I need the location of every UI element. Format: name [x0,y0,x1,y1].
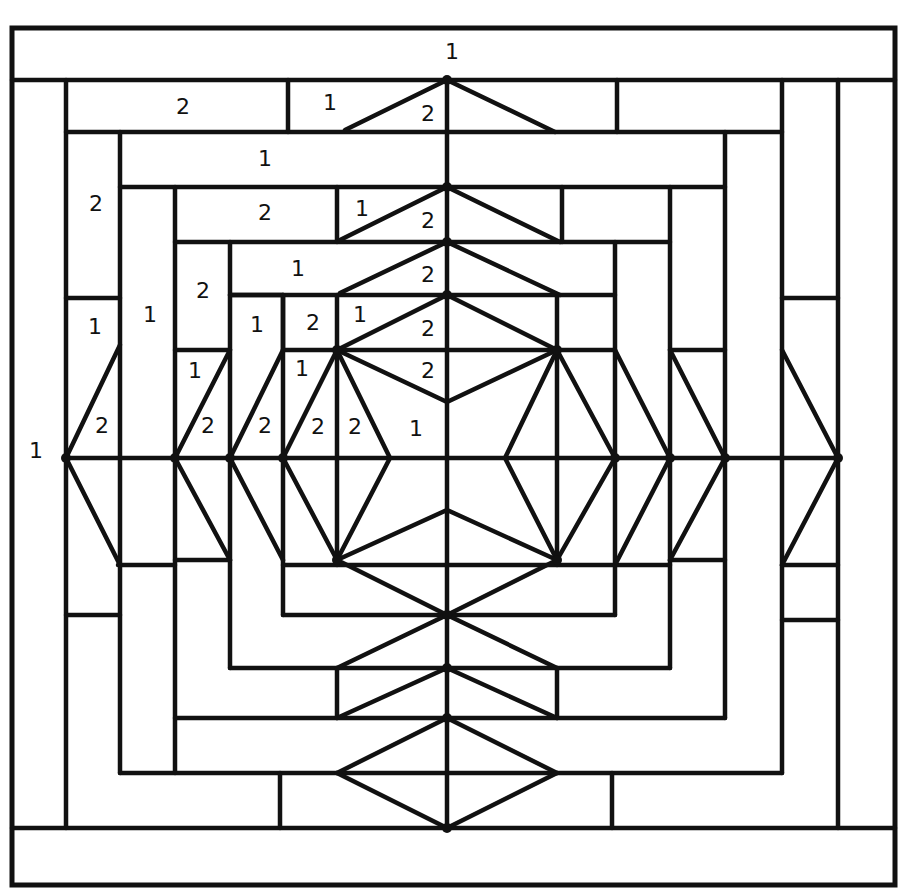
fabric-number-label: 2 [421,316,435,341]
junction-node [442,713,452,723]
junction-node [61,453,71,463]
junction-node [442,610,452,620]
fabric-number-label: 2 [348,414,362,439]
fabric-number-label: 2 [306,310,320,335]
junction-node [552,555,562,565]
fabric-number-label: 2 [311,414,325,439]
junction-node [442,663,452,673]
junction-node [833,453,843,463]
fabric-number-label: 2 [95,413,109,438]
fabric-number-label: 1 [88,314,102,339]
junction-node [442,823,452,833]
quilt-pattern-diagram: 1212122122121112121122222211 [0,0,904,893]
junction-node [442,237,452,247]
fabric-number-label: 2 [421,358,435,383]
fabric-number-label: 1 [323,90,337,115]
junction-node [442,75,452,85]
fabric-number-label: 2 [201,413,215,438]
fabric-number-label: 2 [196,278,210,303]
junction-node [610,453,620,463]
fabric-number-label: 2 [421,101,435,126]
fabric-number-label: 1 [445,39,459,64]
junction-node [665,453,675,463]
fabric-number-label: 1 [250,312,264,337]
fabric-number-label: 1 [258,146,272,171]
fabric-number-label: 1 [143,302,157,327]
junction-node [170,453,180,463]
fabric-number-label: 1 [188,358,202,383]
junction-node [332,555,342,565]
junction-node [225,453,235,463]
fabric-number-label: 1 [29,438,43,463]
fabric-number-label: 1 [291,256,305,281]
fabric-number-label: 1 [355,196,369,221]
fabric-number-label: 2 [258,200,272,225]
junction-node [442,182,452,192]
junction-node [278,453,288,463]
fabric-number-label: 1 [409,416,423,441]
fabric-number-label: 2 [258,413,272,438]
junction-node [720,453,730,463]
fabric-number-label: 1 [295,356,309,381]
junction-node [552,345,562,355]
junction-node [442,290,452,300]
fabric-number-label: 2 [89,191,103,216]
fabric-number-label: 2 [421,262,435,287]
fabric-number-label: 2 [176,94,190,119]
fabric-number-label: 2 [421,208,435,233]
fabric-number-label: 1 [353,302,367,327]
junction-node [332,345,342,355]
